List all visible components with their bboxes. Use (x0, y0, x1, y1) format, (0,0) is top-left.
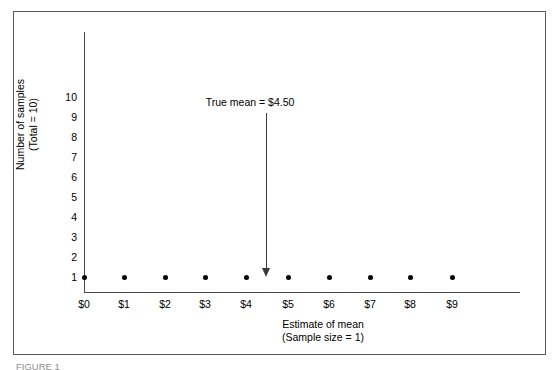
x-tick-label: $9 (432, 298, 472, 310)
x-axis-title: Estimate of mean (Sample size = 1) (248, 318, 398, 343)
data-point (122, 275, 127, 280)
y-tick-label: 4 (55, 212, 77, 222)
data-point (203, 275, 208, 280)
figure-caption: FIGURE 1 (16, 361, 60, 370)
x-axis-title-sub: (Sample size = 1) (248, 331, 398, 344)
y-tick-label: 6 (55, 172, 77, 182)
y-tick-label: 9 (55, 112, 77, 122)
x-tick-label: $1 (104, 298, 144, 310)
x-tick-label: $2 (145, 298, 185, 310)
y-axis-title: Number of samples (Total = 10) (14, 50, 39, 200)
x-tick-label: $3 (185, 298, 225, 310)
data-point (408, 275, 413, 280)
data-point (286, 275, 291, 280)
data-point (82, 275, 87, 280)
true-mean-arrow-head-icon (262, 268, 270, 277)
y-axis-line (84, 32, 85, 292)
true-mean-annotation-label: True mean = $4.50 (140, 96, 360, 108)
data-point (163, 275, 168, 280)
true-mean-arrow-line (266, 113, 267, 271)
y-tick-label: 1 (55, 272, 77, 282)
y-axis-title-main: Number of samples (14, 50, 27, 200)
y-tick-label: 8 (55, 132, 77, 142)
x-tick-label: $0 (64, 298, 104, 310)
chart-plot-area: 10 9 8 7 6 5 4 3 2 1 Number of samples (… (0, 0, 559, 370)
x-tick-label: $8 (390, 298, 430, 310)
y-tick-label: 7 (55, 152, 77, 162)
x-tick-label: $4 (226, 298, 266, 310)
y-tick-label: 2 (55, 252, 77, 262)
data-point (244, 275, 249, 280)
data-point (450, 275, 455, 280)
y-tick-label: 3 (55, 232, 77, 242)
x-tick-label: $7 (350, 298, 390, 310)
x-axis-title-main: Estimate of mean (248, 318, 398, 331)
x-tick-label: $6 (309, 298, 349, 310)
x-tick-label: $5 (268, 298, 308, 310)
y-tick-label: 10 (55, 92, 77, 102)
y-tick-label: 5 (55, 192, 77, 202)
data-point (368, 275, 373, 280)
y-axis-title-sub: (Total = 10) (26, 50, 39, 200)
y-axis-tick-labels: 10 9 8 7 6 5 4 3 2 1 (55, 0, 77, 370)
x-axis-line (84, 292, 520, 293)
data-point (327, 275, 332, 280)
